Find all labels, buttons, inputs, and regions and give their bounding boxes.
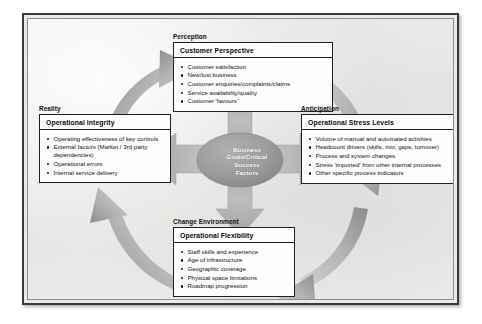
list-item: Age of infrastructure [180,256,288,264]
list-item: External factors (Market / 3rd party dep… [46,143,164,159]
quadrant-reality: Reality Operational Integrity Operating … [39,105,171,183]
list-item: Geographic coverage [180,265,288,273]
list-item: Operating effectiveness of key controls [46,135,164,143]
list-item: Customer satisfaction [180,63,326,71]
list-item: Customer enquiries/complaints/claims [180,80,326,88]
diagram-frame: Business Goals/Critical Success Factors … [22,13,459,305]
list-item: Physical space limitations [180,274,288,282]
quadrant-anticipation-category: Anticipation [301,105,454,112]
quadrant-change-environment: Change Environment Operational Flexibili… [173,218,295,297]
list-item: Other specific process indicators [308,169,454,177]
quadrant-perception: Perception Customer Perspective Customer… [173,33,333,112]
diagram-frame-inner: Business Goals/Critical Success Factors … [27,18,454,300]
list-item: Stress 'imported' from other internal pr… [308,161,454,169]
quadrant-perception-box: Customer Perspective Customer satisfacti… [173,42,333,112]
quadrant-anticipation: Anticipation Operational Stress Levels V… [301,105,454,184]
list-item: New/lost business [180,71,326,79]
quadrant-change-environment-category: Change Environment [173,218,295,225]
quadrant-reality-category: Reality [39,105,171,112]
quadrant-anticipation-box: Operational Stress Levels Volume of manu… [301,114,454,184]
quadrant-perception-list: Customer satisfaction New/lost business … [174,58,332,111]
list-item: Operational errors [46,160,164,168]
quadrant-reality-title: Operational Integrity [40,115,170,131]
quadrant-anticipation-title: Operational Stress Levels [302,115,454,131]
quadrant-perception-category: Perception [173,33,333,40]
quadrant-reality-list: Operating effectiveness of key controls … [40,130,170,182]
quadrant-perception-title: Customer Perspective [174,43,332,59]
list-item: Service availability/quality [180,89,326,97]
quadrant-reality-box: Operational Integrity Operating effectiv… [39,114,171,184]
centre-node-label: Business Goals/Critical Success Factors [227,147,268,177]
quadrant-anticipation-list: Volume of manual and automated activitie… [302,130,454,183]
cycle-arrow-change-environment-to-reality [90,187,178,291]
centre-node: Business Goals/Critical Success Factors [204,134,290,190]
quadrant-change-environment-box: Operational Flexibility Staff skills and… [173,227,295,297]
list-item: Staff skills and experience [180,248,288,256]
list-item: Process and system changes [308,152,454,160]
list-item: Roadmap progression [180,282,288,290]
list-item: Internal service delivery [46,169,164,177]
list-item: Headcount drivers (skills, mix, gaps, tu… [308,143,454,151]
list-item: Volume of manual and automated activitie… [308,135,454,143]
quadrant-change-environment-list: Staff skills and experience Age of infra… [174,243,294,296]
diagram-canvas: Business Goals/Critical Success Factors … [0,0,482,324]
quadrant-change-environment-title: Operational Flexibility [174,228,294,244]
